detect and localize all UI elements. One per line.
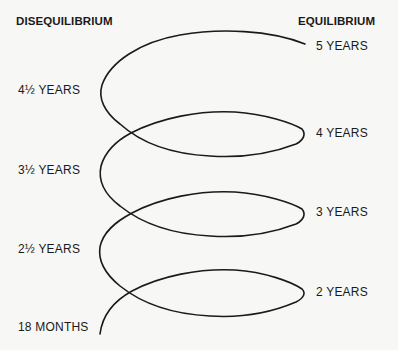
development-spiral-curve	[0, 0, 398, 350]
spiral-development-diagram: DISEQUILIBRIUM EQUILIBRIUM 4½ YEARS 3½ Y…	[0, 0, 398, 350]
